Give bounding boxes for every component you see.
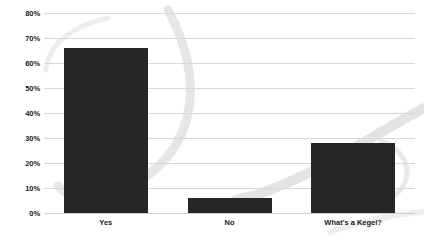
bar-chart: 0%10%20%30%40%50%60%70%80% YesNoWhat's a… — [0, 0, 424, 236]
y-axis-tick-label: 30% — [0, 134, 40, 143]
y-axis-tick-label: 40% — [0, 109, 40, 118]
y-axis-tick-label: 70% — [0, 34, 40, 43]
y-axis-tick-label: 60% — [0, 59, 40, 68]
bars-layer — [44, 13, 415, 213]
x-axis-tick-label: What's a Kegel? — [291, 218, 415, 227]
y-axis: 0%10%20%30%40%50%60%70%80% — [0, 13, 40, 213]
bar — [311, 143, 395, 213]
bar — [64, 48, 148, 213]
x-axis-tick-label: No — [168, 218, 292, 227]
y-axis-tick-label: 20% — [0, 159, 40, 168]
x-axis: YesNoWhat's a Kegel? — [44, 214, 415, 236]
y-axis-tick-label: 50% — [0, 84, 40, 93]
y-axis-tick-label: 0% — [0, 209, 40, 218]
y-axis-tick-label: 10% — [0, 184, 40, 193]
y-axis-tick-label: 80% — [0, 9, 40, 18]
bar — [188, 198, 272, 213]
x-axis-tick-label: Yes — [44, 218, 168, 227]
